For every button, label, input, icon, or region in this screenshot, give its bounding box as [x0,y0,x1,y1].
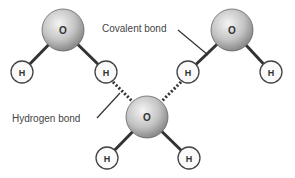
water-hydrogen-bond-diagram: O O O H H H H H H Covalent bond Hydrogen… [0,0,295,178]
covalent-leader-line [178,30,208,55]
hydrogen-label: H [103,68,110,78]
oxygen-label: O [59,25,67,36]
hydrogen-label: H [185,68,192,78]
covalent-bond-label: Covalent bond [102,23,167,34]
hydrogen-bond-label: Hydrogen bond [12,113,80,124]
hydrogen-label: H [186,154,193,164]
oxygen-label: O [228,25,236,36]
hydrogen-leader-line [97,93,120,118]
hydrogen-label: H [19,68,26,78]
hydrogen-label: H [104,154,111,164]
hydrogen-label: H [268,68,275,78]
oxygen-label: O [143,112,151,123]
